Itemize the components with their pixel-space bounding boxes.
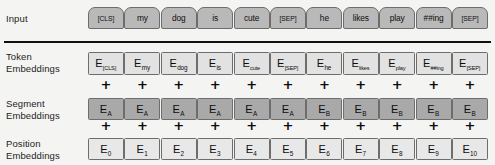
embedding-subscript: A bbox=[253, 110, 257, 117]
input-token-chip[interactable]: likes bbox=[343, 7, 379, 29]
token-column: cuteEcute+EA+E4 bbox=[234, 0, 270, 165]
input-token-chip[interactable]: my bbox=[124, 7, 160, 29]
plus-icon: + bbox=[124, 78, 160, 91]
plus-icon: + bbox=[270, 78, 306, 91]
segment-embedding-box: EA bbox=[234, 98, 270, 120]
plus-icon: + bbox=[379, 78, 415, 91]
token-column: [SEP]E[SEP]+EA+E5 bbox=[270, 0, 306, 165]
row-label-token-embeddings: Token Embeddings bbox=[6, 51, 86, 74]
embedding-symbol: EB bbox=[464, 104, 476, 115]
embedding-subscript: is bbox=[216, 64, 220, 71]
embedding-subscript: 1 bbox=[144, 150, 147, 157]
embedding-base-letter: E bbox=[209, 143, 216, 155]
token-embedding-box: Ecute bbox=[234, 52, 270, 75]
embedding-subscript: A bbox=[180, 110, 184, 117]
embedding-base-letter: E bbox=[319, 143, 326, 155]
embedding-symbol: E1 bbox=[137, 144, 149, 155]
position-embedding-box: E1 bbox=[124, 138, 160, 160]
embedding-subscript: 7 bbox=[363, 150, 366, 157]
embedding-subscript: B bbox=[326, 110, 330, 117]
embedding-base-letter: E bbox=[391, 103, 398, 115]
plus-icon: + bbox=[416, 78, 452, 91]
input-token-chip[interactable]: [SEP] bbox=[270, 7, 306, 29]
embedding-symbol: E##ing bbox=[423, 58, 444, 69]
embedding-subscript: [CLS] bbox=[103, 65, 116, 71]
plus-icon: + bbox=[343, 119, 379, 132]
embedding-base-letter: E bbox=[246, 143, 253, 155]
embedding-subscript: [SEP] bbox=[285, 65, 299, 71]
position-embedding-box: E8 bbox=[379, 138, 415, 160]
token-embedding-box: Edog bbox=[161, 52, 197, 75]
embedding-symbol: EB bbox=[318, 104, 330, 115]
token-column: dogEdog+EA+E2 bbox=[161, 0, 197, 165]
embedding-base-letter: E bbox=[95, 57, 102, 69]
embedding-subscript: cute bbox=[250, 65, 260, 71]
position-embedding-box: E9 bbox=[416, 138, 452, 160]
embedding-symbol: E10 bbox=[462, 144, 477, 155]
embedding-subscript: 6 bbox=[326, 150, 329, 157]
embedding-base-letter: E bbox=[462, 143, 469, 155]
row-label-token-line1: Token bbox=[6, 51, 32, 62]
row-label-input: Input bbox=[6, 13, 86, 25]
embedding-base-letter: E bbox=[242, 57, 249, 69]
embedding-base-letter: E bbox=[388, 57, 395, 69]
token-embedding-box: E[SEP] bbox=[452, 52, 488, 75]
embedding-subscript: B bbox=[362, 110, 366, 117]
position-embedding-box: E4 bbox=[234, 138, 270, 160]
embedding-symbol: E[CLS] bbox=[95, 58, 117, 69]
embedding-base-letter: E bbox=[173, 143, 180, 155]
input-token-chip[interactable]: he bbox=[306, 7, 342, 29]
embedding-symbol: E[SEP] bbox=[459, 58, 481, 69]
embedding-base-letter: E bbox=[100, 103, 107, 115]
embedding-subscript: A bbox=[144, 110, 148, 117]
row-label-segment-embeddings: Segment Embeddings bbox=[6, 98, 86, 121]
row-label-position-line2: Embeddings bbox=[6, 150, 86, 162]
position-embedding-box: E2 bbox=[161, 138, 197, 160]
token-embedding-box: Ehe bbox=[306, 52, 342, 75]
position-embedding-box: E3 bbox=[197, 138, 233, 160]
segment-embedding-box: EA bbox=[161, 98, 197, 120]
embedding-symbol: E7 bbox=[355, 144, 367, 155]
plus-icon: + bbox=[452, 119, 488, 132]
token-embedding-box: Elikes bbox=[343, 52, 379, 75]
embedding-symbol: Elikes bbox=[351, 58, 370, 69]
input-token-chip[interactable]: [SEP] bbox=[452, 7, 488, 29]
embedding-base-letter: E bbox=[282, 103, 289, 115]
token-column: ##ingE##ing+EB+E9 bbox=[416, 0, 452, 165]
plus-icon: + bbox=[343, 78, 379, 91]
embedding-subscript: B bbox=[399, 110, 403, 117]
segment-embedding-box: EB bbox=[416, 98, 452, 120]
embedding-base-letter: E bbox=[209, 103, 216, 115]
embedding-subscript: B bbox=[435, 110, 439, 117]
input-token-chip[interactable]: dog bbox=[161, 7, 197, 29]
plus-icon: + bbox=[197, 78, 233, 91]
token-embedding-box: Emy bbox=[124, 52, 160, 75]
embedding-symbol: Eis bbox=[209, 58, 222, 69]
input-token-chip[interactable]: play bbox=[379, 7, 415, 29]
plus-icon: + bbox=[234, 119, 270, 132]
token-column: heEhe+EB+E6 bbox=[306, 0, 342, 165]
position-embedding-box: E7 bbox=[343, 138, 379, 160]
embedding-symbol: E2 bbox=[173, 144, 185, 155]
embedding-base-letter: E bbox=[173, 103, 180, 115]
embedding-symbol: Ecute bbox=[242, 58, 260, 69]
input-token-chip[interactable]: is bbox=[197, 7, 233, 29]
token-embedding-box: E[CLS] bbox=[88, 52, 124, 75]
input-token-chip[interactable]: cute bbox=[234, 7, 270, 29]
embedding-symbol: EA bbox=[136, 104, 148, 115]
plus-icon: + bbox=[379, 119, 415, 132]
embedding-subscript: 8 bbox=[399, 150, 402, 157]
embedding-base-letter: E bbox=[277, 57, 284, 69]
row-label-token-line2: Embeddings bbox=[6, 63, 86, 75]
token-embedding-box: E##ing bbox=[416, 52, 452, 75]
token-column: [SEP]E[SEP]+EB+E10 bbox=[452, 0, 488, 165]
plus-icon: + bbox=[124, 119, 160, 132]
embedding-base-letter: E bbox=[282, 143, 289, 155]
input-token-chip[interactable]: [CLS] bbox=[88, 7, 124, 29]
plus-icon: + bbox=[88, 119, 124, 132]
plus-icon: + bbox=[88, 78, 124, 91]
segment-embedding-box: EA bbox=[197, 98, 233, 120]
input-token-chip[interactable]: ##ing bbox=[416, 7, 452, 29]
embedding-base-letter: E bbox=[464, 103, 471, 115]
embedding-subscript: 10 bbox=[470, 150, 477, 157]
